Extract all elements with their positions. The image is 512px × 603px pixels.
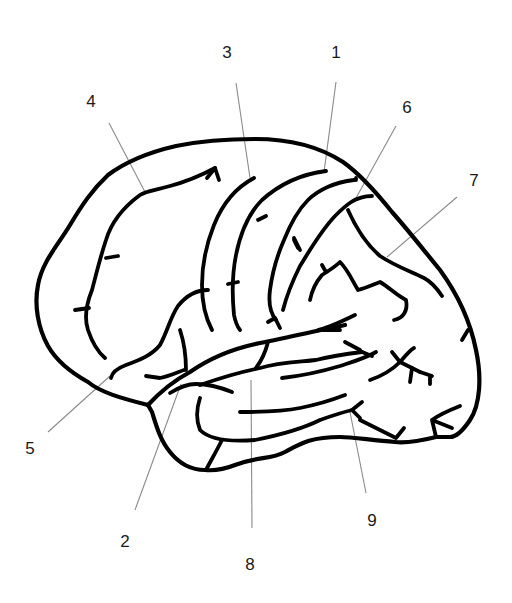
brain-diagram: 1 2 3 4 5 6 7 8 9 (0, 0, 512, 603)
brain-sulci (75, 168, 468, 470)
leader-line-6 (356, 126, 396, 198)
brain-drawing (0, 0, 512, 603)
label-5: 5 (25, 440, 34, 457)
leader-line-8 (251, 380, 252, 528)
label-6: 6 (402, 99, 411, 116)
label-9: 9 (367, 512, 376, 529)
label-8: 8 (245, 556, 254, 573)
label-2: 2 (120, 533, 129, 550)
leader-line-9 (350, 412, 366, 493)
label-7: 7 (469, 172, 478, 189)
leader-line-5 (48, 376, 110, 432)
brain-outline (36, 139, 479, 470)
label-4: 4 (86, 93, 95, 110)
label-1: 1 (331, 44, 340, 61)
leader-line-3 (236, 83, 250, 178)
label-3: 3 (222, 44, 231, 61)
